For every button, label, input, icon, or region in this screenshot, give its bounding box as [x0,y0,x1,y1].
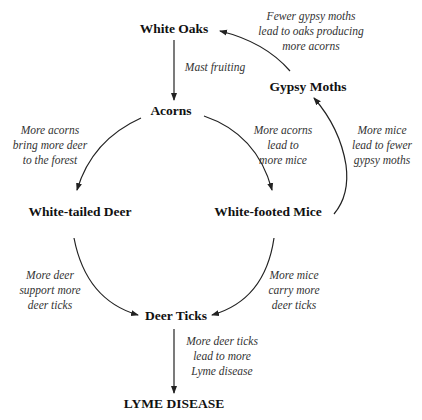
label-line: to the forest [13,153,87,168]
label-mice-ticks: More mice carry more deer ticks [269,268,320,313]
label-ticks-lyme: More deer ticks lead to more Lyme diseas… [186,334,258,379]
node-lyme-disease: LYME DISEASE [124,396,224,412]
label-line: More mice [352,123,412,138]
label-line: More deer ticks [186,334,258,349]
label-acorns-mice: More acorns lead to more mice [254,123,313,168]
node-white-tailed-deer: White-tailed Deer [28,204,131,220]
label-line: More acorns [254,123,313,138]
label-mast-fruiting: Mast fruiting [185,60,245,75]
label-acorns-deer: More acorns bring more deer to the fores… [13,123,87,168]
node-deer-ticks: Deer Ticks [145,308,207,324]
label-line: More acorns [13,123,87,138]
label-line: Mast fruiting [185,60,245,75]
label-line: More mice [269,268,320,283]
node-acorns: Acorns [150,103,191,119]
arrow-deer-to-ticks [74,238,138,315]
arrow-mice-to-ticks [212,238,274,315]
label-line: deer ticks [19,298,80,313]
label-line: lead to [254,138,313,153]
label-line: Fewer gypsy moths [258,9,363,24]
label-line: deer ticks [269,298,320,313]
label-line: carry more [269,283,320,298]
label-line: More deer [19,268,80,283]
label-line: lead to oaks producing [258,24,363,39]
label-line: lead to fewer [352,138,412,153]
node-gypsy-moths: Gypsy Moths [270,79,347,95]
label-line: more mice [254,153,313,168]
node-white-footed-mice: White-footed Mice [214,204,322,220]
label-deer-ticks: More deer support more deer ticks [19,268,80,313]
label-moths-oaks: Fewer gypsy moths lead to oaks producing… [258,9,363,54]
label-line: lead to more [186,349,258,364]
node-white-oaks: White Oaks [140,21,209,37]
label-line: more acorns [258,39,363,54]
label-line: gypsy moths [352,153,412,168]
label-line: bring more deer [13,138,87,153]
arrow-mice-to-moths [314,98,347,214]
label-line: Lyme disease [186,364,258,379]
label-mice-moths: More mice lead to fewer gypsy moths [352,123,412,168]
label-line: support more [19,283,80,298]
